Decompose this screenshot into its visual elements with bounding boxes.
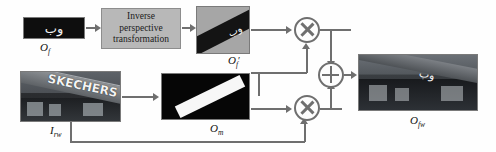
block-om-image: [161, 73, 250, 120]
irw-window-1: [27, 102, 43, 116]
diagram-canvas: وب Of Inverse perspective transformation…: [0, 0, 496, 152]
wire-irw-to-om: [122, 96, 154, 98]
wire-om-to-mulbot: [251, 108, 287, 110]
irw-window-3: [83, 103, 103, 116]
wire-om-to-multop-h: [251, 72, 307, 74]
wire-om-to-multop-v: [306, 48, 308, 73]
arrowhead-ofprime-to-multop: [286, 26, 292, 34]
ofw-window-3: [441, 86, 463, 101]
wire-multop-right: [320, 29, 351, 31]
arrowhead-om-to-mulbot: [286, 105, 292, 113]
om-mask-quad: [175, 75, 245, 118]
label-of: Of: [40, 41, 50, 56]
block-inverse-perspective-transformation: Inverse perspective transformation: [101, 8, 181, 49]
wire-irw-down: [70, 122, 72, 142]
arrowhead-om-to-multop: [302, 43, 310, 49]
block-irw-image: SKECHERS: [20, 71, 121, 122]
transform-line-3: transformation: [113, 34, 169, 46]
block-of-prime-image: وب: [196, 6, 250, 54]
plus-stroke-h: [322, 74, 339, 77]
wire-ofprime-to-multop: [251, 29, 287, 31]
block-of-image: وب: [23, 17, 85, 39]
irw-window-2: [49, 104, 61, 116]
arrowhead-add-to-ofw: [351, 71, 357, 79]
ofw-text: وب: [418, 68, 435, 82]
transform-line-2: perspective: [113, 23, 169, 35]
wire-multop-down: [330, 29, 332, 63]
block-ofw-image: وب: [358, 54, 478, 111]
wire-irw-bottom-rail: [70, 141, 305, 143]
label-of-prime: Of′: [228, 54, 240, 69]
label-irw: Irw: [50, 124, 62, 139]
operator-add[interactable]: [318, 62, 344, 88]
label-ofw: Ofw: [410, 114, 425, 129]
ofw-window-2: [395, 88, 409, 101]
wire-mulbot-up: [330, 88, 332, 109]
label-om: Om: [210, 122, 223, 137]
operator-multiply-bottom[interactable]: [294, 95, 320, 121]
wire-om-up-stub: [258, 73, 260, 96]
of-text: وب: [45, 22, 64, 35]
operator-multiply-top[interactable]: [294, 17, 320, 43]
wire-rail-up-to-mulbot: [304, 122, 306, 142]
ofw-window-1: [369, 85, 387, 101]
transform-line-1: Inverse: [113, 11, 169, 23]
arrowhead-irw-to-om: [153, 93, 159, 101]
